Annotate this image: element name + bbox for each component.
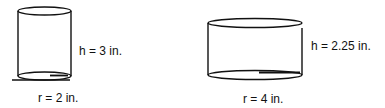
radius-label-right: r = 4 in. [243, 92, 283, 106]
height-label-left: h = 3 in. [79, 44, 122, 58]
cylinder-left [12, 7, 71, 80]
cylinder-right [208, 19, 302, 80]
radius-label-left: r = 2 in. [38, 91, 78, 105]
height-label-right: h = 2.25 in. [311, 39, 371, 53]
